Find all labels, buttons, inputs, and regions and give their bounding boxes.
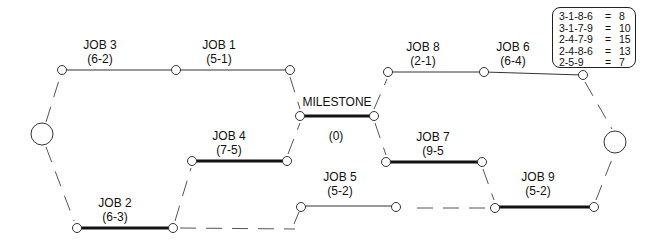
dummy-job2-job5	[180, 228, 295, 229]
node	[283, 157, 292, 166]
job5-times: (5-2)	[323, 184, 356, 198]
job7-label: JOB 7 (9-5	[416, 130, 449, 158]
node	[384, 68, 393, 77]
start-node	[31, 123, 53, 145]
dummy-job6-end	[585, 82, 612, 129]
dummy-job4-milestone	[288, 123, 300, 154]
job9-times: (5-2)	[521, 184, 554, 198]
dummy-job9-end	[596, 154, 614, 200]
node	[590, 203, 599, 212]
end-node	[604, 131, 626, 153]
milestone-times: (0)	[329, 129, 344, 143]
legend-path: 2-5-9	[559, 57, 605, 69]
node	[480, 68, 489, 77]
job2-label: JOB 2 (6-3)	[98, 196, 131, 224]
legend-row: 3-1-8-6 = 8	[559, 11, 635, 23]
node	[296, 112, 305, 121]
legend-value: 8	[619, 11, 625, 23]
job5-name: JOB 5	[323, 170, 356, 184]
job2-name: JOB 2	[98, 196, 131, 210]
node	[188, 157, 197, 166]
job4-name: JOB 4	[212, 129, 245, 143]
dummy-start-job3	[46, 77, 60, 122]
node	[579, 71, 588, 80]
job8-name: JOB 8	[406, 40, 439, 54]
job9-name: JOB 9	[521, 170, 554, 184]
dummy-milestone-job7	[375, 123, 386, 155]
job1-name: JOB 1	[202, 38, 235, 52]
node	[286, 66, 295, 75]
job3-name: JOB 3	[83, 38, 116, 52]
job8-times: (2-1)	[406, 54, 439, 68]
job1-times: (5-1)	[202, 52, 235, 66]
job9-label: JOB 9 (5-2)	[521, 170, 554, 198]
job4-times: (7-5)	[212, 143, 245, 157]
legend-path: 3-1-8-6	[559, 11, 605, 23]
job6-times: (6-4)	[496, 54, 529, 68]
job1-label: JOB 1 (5-1)	[202, 38, 235, 66]
job7-name: JOB 7	[416, 130, 449, 144]
legend-row: 2-5-9 = 7	[559, 57, 635, 69]
dummy-job5-rise	[294, 212, 299, 224]
node	[382, 158, 391, 167]
job6-name: JOB 6	[496, 40, 529, 54]
legend-equals: =	[605, 11, 619, 23]
node	[73, 224, 82, 233]
node	[297, 203, 306, 212]
job5-label: JOB 5 (5-2)	[323, 170, 356, 198]
job8-label: JOB 8 (2-1)	[406, 40, 439, 68]
path-duration-legend: 3-1-8-6 = 8 3-1-7-9 = 10 2-4-7-9 = 15 2-…	[552, 7, 636, 68]
dummy-milestone-job8	[374, 79, 387, 109]
job3-times: (6-2)	[83, 52, 116, 66]
node	[478, 158, 487, 167]
legend-value: 7	[619, 57, 625, 69]
node	[58, 66, 67, 75]
dummy-job2-job4	[175, 168, 191, 221]
dummy-job7-job9	[483, 169, 494, 200]
job6-line	[484, 72, 582, 75]
job4-label: JOB 4 (7-5)	[212, 129, 245, 157]
job3-label: JOB 3 (6-2)	[83, 38, 116, 66]
milestone-name: MILESTONE	[302, 95, 371, 109]
job6-label: JOB 6 (6-4)	[496, 40, 529, 68]
node	[370, 112, 379, 121]
dummy-job1-milestone	[290, 77, 300, 109]
dummy-start-job2	[46, 147, 74, 221]
legend-equals: =	[605, 57, 619, 69]
job7-times: (9-5	[416, 144, 449, 158]
node	[169, 224, 178, 233]
job2-times: (6-3)	[98, 210, 131, 224]
node	[491, 204, 500, 213]
node	[172, 66, 181, 75]
node	[392, 203, 401, 212]
